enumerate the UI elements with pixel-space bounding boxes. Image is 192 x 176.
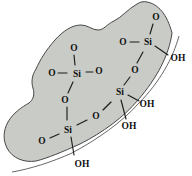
oxygen-above-top-right-si-label: O <box>152 12 159 22</box>
middle-right-silicon-label: Si <box>116 87 124 97</box>
bridging-oxygen-middle-label: O <box>92 111 99 121</box>
bridging-oxygen-upper-right-label: O <box>131 65 138 75</box>
oxygen-left-of-center-si-label: O <box>48 68 55 78</box>
top-right-silicon-label: Si <box>144 37 152 47</box>
oxygen-above-center-si-label: O <box>70 43 77 53</box>
oxygen-right-of-center-si-label: O <box>95 66 102 76</box>
oxygen-left-of-bottom-si-label: O <box>38 136 45 146</box>
particle-body <box>4 2 172 162</box>
hydroxyl-middle-right-upper-label: OH <box>140 99 155 109</box>
diagram-canvas: O O Si O O Si O OH O Si OH OH O Si O O O… <box>0 0 192 176</box>
bottom-left-silicon-label: Si <box>64 125 72 135</box>
oxygen-below-center-si-label: O <box>61 95 68 105</box>
hydroxyl-bottom-label: OH <box>75 159 90 169</box>
silica-surface-diagram: O O Si O O Si O OH O Si OH OH O Si O O O… <box>0 0 192 176</box>
hydroxyl-middle-right-lower-label: OH <box>122 121 137 131</box>
oxygen-left-of-top-right-si-label: O <box>119 37 126 47</box>
center-silicon-label: Si <box>73 69 81 79</box>
hydroxyl-top-right-label: OH <box>171 53 186 63</box>
